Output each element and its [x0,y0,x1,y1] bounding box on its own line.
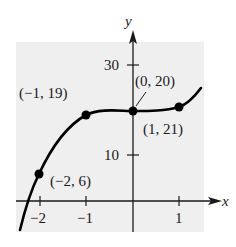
point-marker [35,170,44,179]
cubic-function-graph: y x −2 −1 1 10 30 (−2, 6) (−1, 19) (0, 2… [0,0,236,247]
point-label: (0, 20) [135,73,175,90]
point-label: (−2, 6) [50,173,91,190]
point-marker [129,107,138,116]
x-axis-label: x [221,193,229,209]
point-marker [82,111,91,120]
point-marker [175,103,184,112]
y-tick-label: 10 [104,147,119,163]
x-tick-label: −2 [30,210,46,226]
point-label: (1, 21) [143,121,183,138]
x-tick-label: 1 [175,210,183,226]
x-tick-label: −1 [77,210,93,226]
y-axis-label: y [123,13,132,29]
y-tick-label: 30 [104,57,119,73]
point-label: (−1, 19) [19,85,67,102]
